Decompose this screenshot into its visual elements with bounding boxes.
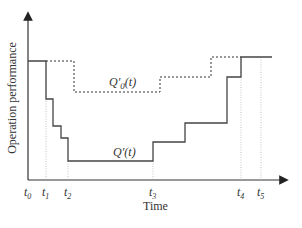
series-q-solid [28,57,272,161]
svg-text:t0: t0 [24,185,31,201]
svg-text:t2: t2 [64,185,71,201]
series-q0-dashed [46,57,241,92]
svg-text:t1: t1 [42,185,49,201]
q0-label: Q′0(t) [109,75,136,91]
q-label: Q′(t) [113,145,136,159]
y-axis-title: Operation performance [5,42,19,154]
svg-text:t4: t4 [237,185,244,201]
step-chart: Q′0(t) Q′(t) t0 t1 t2 t3 t4 t5 Time Oper… [0,0,302,228]
svg-text:t5: t5 [257,185,264,201]
x-axis-title: Time [143,199,168,213]
